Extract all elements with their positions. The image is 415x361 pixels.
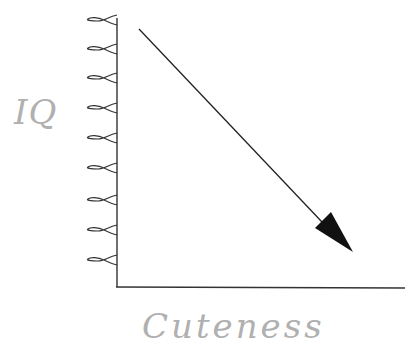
loop-tick <box>87 255 117 265</box>
y-axis-label: IQ <box>14 92 57 132</box>
loop-tick <box>87 15 117 25</box>
loop-tick <box>87 225 117 235</box>
loop-tick <box>87 103 117 113</box>
downward-trend-arrow <box>139 29 353 252</box>
x-axis <box>116 287 405 288</box>
loop-tick <box>87 195 117 205</box>
x-axis-label: Cuteness <box>142 306 325 346</box>
loop-tick <box>87 73 117 83</box>
arrowhead-icon <box>315 212 353 252</box>
loop-tick <box>87 163 117 173</box>
loop-tick <box>87 133 117 143</box>
loop-tick <box>87 44 117 54</box>
y-axis-loop-ticks <box>87 15 117 265</box>
